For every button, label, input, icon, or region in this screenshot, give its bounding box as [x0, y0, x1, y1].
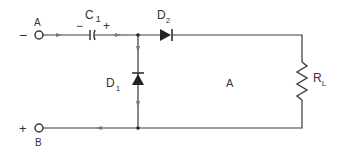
capacitor-neg-sign: − [76, 19, 83, 33]
terminal-a: − A [19, 17, 43, 43]
resistor-zigzag-icon [297, 62, 307, 100]
diode-d2: D2 [157, 8, 172, 41]
terminal-b-label: B [35, 137, 42, 148]
wire-bottom [43, 100, 302, 128]
capacitor-label: C1 [85, 8, 101, 24]
current-arrow-right-icon [115, 33, 121, 37]
terminal-b-node-icon [35, 124, 43, 132]
capacitor-pos-sign: + [103, 19, 110, 33]
current-arrow-left-icon [96, 126, 102, 130]
current-arrow-down-icon [136, 46, 140, 53]
terminal-a-label: A [34, 17, 41, 28]
load-resistor-rl: RL [297, 62, 327, 100]
circuit-diagram: − A C1 − + D2 RL D1 A [0, 0, 340, 154]
capacitor-curved-plate-icon [94, 30, 95, 40]
resistor-label: RL [313, 71, 327, 88]
diode-triangle-icon [132, 74, 144, 85]
wire-top-right [172, 35, 302, 62]
terminal-a-node-icon [35, 31, 43, 39]
diode-triangle-icon [160, 29, 171, 41]
terminal-b-polarity: + [19, 121, 27, 136]
terminal-a-polarity: − [19, 27, 27, 43]
current-arrow-down-icon [136, 101, 140, 108]
current-arrow-right-icon [56, 33, 62, 37]
diode-d2-label: D2 [157, 8, 171, 25]
diode-d1-label: D1 [106, 76, 121, 93]
region-label: A [226, 77, 234, 89]
terminal-b: + B [19, 121, 43, 148]
